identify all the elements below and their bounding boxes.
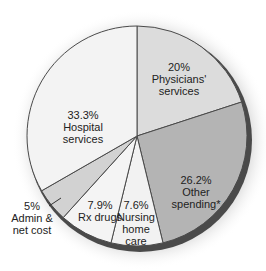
pie-chart: 20%Physicians'services26.2%Otherspending… [0, 0, 266, 271]
slice-label: 33.3%Hospitalservices [63, 109, 104, 145]
